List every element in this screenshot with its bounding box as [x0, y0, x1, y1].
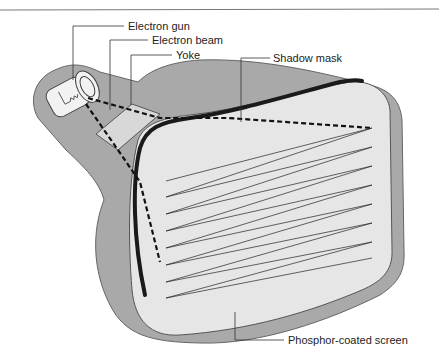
label-electron-beam: Electron beam	[152, 34, 223, 46]
crt-diagram: Electron gun Electron beam Yoke Shadow m…	[0, 0, 439, 362]
top-rule	[0, 9, 439, 10]
label-shadow-mask: Shadow mask	[273, 52, 342, 64]
crt-illustration	[0, 0, 439, 362]
label-yoke: Yoke	[176, 49, 200, 61]
label-phosphor-screen: Phosphor-coated screen	[288, 334, 408, 346]
label-electron-gun: Electron gun	[128, 20, 190, 32]
